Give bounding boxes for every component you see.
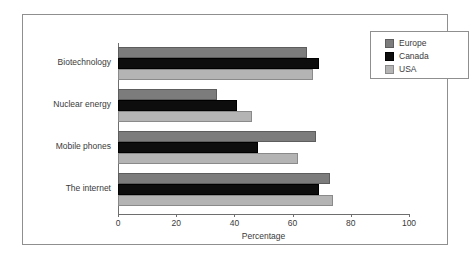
- bar-canada: [118, 58, 319, 69]
- category-label: Biotechnology: [31, 57, 118, 67]
- legend-label: USA: [399, 64, 416, 74]
- category-label: Mobile phones: [31, 141, 118, 151]
- bar-usa: [118, 69, 313, 80]
- chart-legend: Europe Canada USA: [370, 31, 469, 79]
- category-label: Nuclear energy: [31, 99, 118, 109]
- x-axis-tick-mark: [176, 214, 177, 217]
- legend-label: Canada: [399, 51, 429, 61]
- legend-label: Europe: [399, 38, 426, 48]
- x-axis-tick-mark: [409, 214, 410, 217]
- bar-group-nuclear-energy: Nuclear energy: [118, 89, 409, 125]
- x-axis-tick-mark: [351, 214, 352, 217]
- legend-item-usa: USA: [385, 63, 468, 75]
- x-axis-tick-mark: [293, 214, 294, 217]
- x-axis-tick-label: 60: [288, 218, 297, 228]
- legend-swatch-icon: [385, 52, 394, 61]
- bar-europe: [118, 89, 217, 100]
- bar-group-mobile-phones: Mobile phones: [118, 131, 409, 167]
- x-axis-title: Percentage: [118, 231, 409, 241]
- bar-europe: [118, 47, 307, 58]
- x-axis-tick-label: 80: [346, 218, 355, 228]
- bar-canada: [118, 142, 258, 153]
- bar-europe: [118, 173, 330, 184]
- x-axis-tick-label: 0: [116, 218, 121, 228]
- x-axis-tick-label: 20: [171, 218, 180, 228]
- category-label: The internet: [31, 183, 118, 193]
- legend-swatch-icon: [385, 39, 394, 48]
- bar-usa: [118, 195, 333, 206]
- plot-area: Biotechnology Nuclear energy Mobile phon…: [118, 43, 409, 215]
- bar-canada: [118, 100, 237, 111]
- x-axis-tick-mark: [118, 214, 119, 217]
- legend-item-europe: Europe: [385, 37, 468, 49]
- chart-frame: Biotechnology Nuclear energy Mobile phon…: [22, 14, 448, 245]
- bar-group-the-internet: The internet: [118, 173, 409, 209]
- x-axis-tick-mark: [234, 214, 235, 217]
- bar-canada: [118, 184, 319, 195]
- bar-usa: [118, 153, 298, 164]
- legend-swatch-icon: [385, 65, 394, 74]
- bar-usa: [118, 111, 252, 122]
- x-axis-tick-label: 40: [230, 218, 239, 228]
- legend-item-canada: Canada: [385, 50, 468, 62]
- bar-group-biotechnology: Biotechnology: [118, 47, 409, 83]
- x-axis-tick-label: 100: [402, 218, 416, 228]
- bar-europe: [118, 131, 316, 142]
